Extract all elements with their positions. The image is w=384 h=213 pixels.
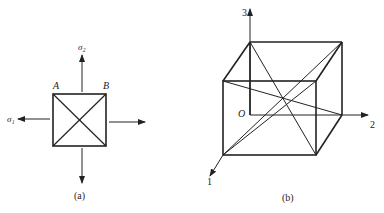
caption-b: (b) [282,192,294,204]
corner-b-label: B [103,80,109,91]
corner-a-label: A [52,80,60,91]
figure-b-cube: 3 2 1 O (b) [207,7,375,204]
axis-1-label: 1 [207,176,212,187]
axis-1 [210,155,223,176]
figure-a-stress-element: σ₂ σ₁ A B (a) [7,42,145,202]
origin-label: O [238,108,245,119]
sigma2-label: σ₂ [78,42,86,52]
caption-a: (a) [74,190,85,202]
axis-3-label: 3 [242,7,247,18]
axis-2-label: 2 [370,119,375,130]
sigma1-label: σ₁ [7,114,15,124]
figure-canvas: σ₂ σ₁ A B (a) 3 2 1 O (b) [0,0,384,213]
